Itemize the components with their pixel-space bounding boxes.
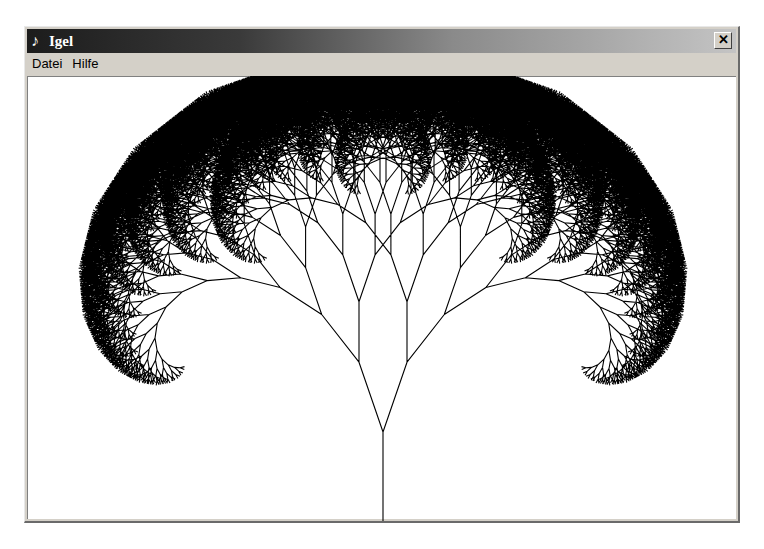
drawing-canvas[interactable]: [27, 76, 736, 519]
menu-bar: Datei Hilfe: [27, 54, 736, 74]
app-window: ♪ Igel ✕ Datei Hilfe: [24, 26, 740, 523]
window-title: Igel: [49, 32, 73, 50]
turtle-pen-icon: ♪: [31, 32, 47, 50]
title-bar[interactable]: ♪ Igel ✕: [27, 29, 736, 53]
menu-hilfe[interactable]: Hilfe: [67, 55, 103, 73]
menu-datei[interactable]: Datei: [27, 55, 67, 73]
close-button[interactable]: ✕: [714, 32, 732, 49]
